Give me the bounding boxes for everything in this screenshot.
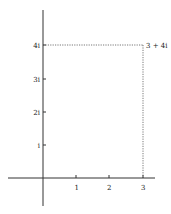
y-tick-label-3i: 3i [33, 76, 40, 84]
x-tick-label-3: 3 [141, 184, 145, 192]
argand-diagram: 1 2 3 i 2i 3i 4i 3 + 4i [0, 0, 171, 214]
point-label: 3 + 4i [146, 42, 168, 50]
y-tick-label-2i: 2i [33, 109, 40, 117]
y-tick-label-i: i [38, 142, 41, 150]
x-tick-label-1: 1 [75, 184, 79, 192]
y-tick-label-4i: 4i [33, 42, 40, 50]
x-tick-label-2: 2 [107, 184, 111, 192]
